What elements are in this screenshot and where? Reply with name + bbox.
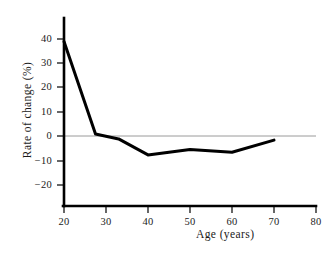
x-tick-label-30: 30 (92, 216, 120, 227)
data-series-line (64, 41, 274, 154)
x-axis-title: Age (years) (196, 228, 254, 240)
chart-container: 40 30 20 10 0 −10 −20 20 30 40 50 60 70 … (0, 0, 333, 261)
x-tick-label-20: 20 (50, 216, 78, 227)
x-tick-label-50: 50 (176, 216, 204, 227)
x-tick-label-60: 60 (218, 216, 246, 227)
y-tick-label-minus20: −20 (20, 179, 52, 190)
x-axis-ticks (64, 207, 316, 213)
y-axis-ticks (57, 39, 63, 185)
x-tick-label-40: 40 (134, 216, 162, 227)
y-axis-title: Rate of change (%) (21, 40, 33, 180)
x-tick-label-70: 70 (260, 216, 288, 227)
x-tick-label-80: 80 (302, 216, 330, 227)
